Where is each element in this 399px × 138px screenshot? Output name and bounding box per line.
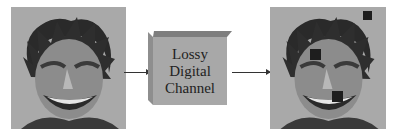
output-image bbox=[270, 7, 386, 129]
channel-label-line-1: Lossy bbox=[172, 46, 208, 63]
output-arrow bbox=[232, 72, 270, 73]
lost-block-1 bbox=[363, 11, 372, 20]
channel-label-line-2: Digital bbox=[169, 63, 211, 80]
channel-label-line-3: Channel bbox=[165, 80, 215, 97]
box-front-face: Lossy Digital Channel bbox=[153, 37, 227, 105]
lost-block-2 bbox=[310, 49, 321, 60]
input-arrow bbox=[124, 72, 150, 73]
input-image bbox=[11, 7, 126, 129]
lost-block-3 bbox=[332, 91, 343, 102]
lossy-digital-channel-box: Lossy Digital Channel bbox=[148, 31, 232, 105]
